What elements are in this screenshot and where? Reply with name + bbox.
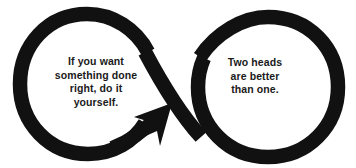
self-reliance-quote: If you want something done right, do it …: [26, 55, 166, 109]
collaboration-quote: Two heads are better than one.: [206, 56, 304, 97]
quote-line: right, do it: [26, 82, 166, 96]
quote-line: If you want: [26, 55, 166, 69]
infinity-quote-graphic: If you want something done right, do it …: [0, 0, 356, 168]
quote-line: Two heads: [206, 56, 304, 70]
quote-line: yourself.: [26, 96, 166, 110]
quote-line: are better: [206, 70, 304, 84]
quote-line: something done: [26, 69, 166, 83]
quote-line: than one.: [206, 83, 304, 97]
